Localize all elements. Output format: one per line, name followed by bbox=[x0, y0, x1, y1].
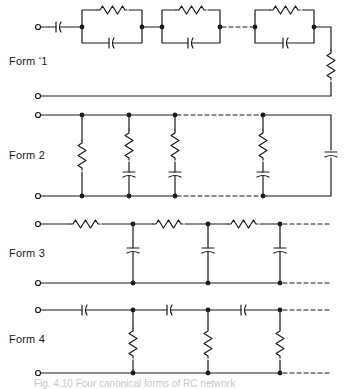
circuit-diagram bbox=[0, 0, 345, 389]
resistor-icon bbox=[129, 328, 137, 358]
resistor-icon bbox=[228, 220, 258, 228]
form-3-label: Form 3 bbox=[9, 247, 45, 259]
figure-caption: Fig. 4.10 Four canonical forms of RC net… bbox=[34, 378, 235, 389]
series-rc-branch-2 bbox=[169, 113, 181, 198]
form-2-label: Form 2 bbox=[9, 149, 45, 161]
input-terminal-top bbox=[36, 25, 41, 30]
form-2-network bbox=[36, 113, 338, 199]
form-1-network bbox=[36, 6, 336, 99]
form-1-label: Form ʻ1 bbox=[9, 55, 48, 67]
resistor-icon bbox=[259, 130, 267, 160]
resistor-icon bbox=[270, 6, 300, 14]
resistor-icon bbox=[125, 130, 133, 160]
parallel-rc-section-2 bbox=[162, 6, 220, 48]
form-4-network bbox=[36, 305, 331, 376]
form-3-network bbox=[36, 220, 331, 286]
series-rc-branch-n bbox=[257, 113, 269, 198]
resistor-icon bbox=[171, 130, 179, 160]
shunt-capacitors bbox=[127, 224, 286, 283]
shunt-resistors bbox=[129, 310, 284, 373]
parallel-rc-section-n bbox=[255, 6, 314, 48]
resistor-icon bbox=[276, 328, 284, 358]
parallel-rc-section-1 bbox=[82, 6, 142, 48]
resistor-icon bbox=[176, 6, 206, 14]
resistor-icon bbox=[153, 220, 183, 228]
form-4-label: Form 4 bbox=[9, 333, 45, 345]
resistor-icon bbox=[70, 220, 100, 228]
resistor-icon bbox=[327, 50, 335, 80]
input-terminal-bottom bbox=[36, 94, 41, 99]
resistor-icon bbox=[78, 140, 86, 170]
resistor-icon bbox=[97, 6, 127, 14]
resistor-icon bbox=[204, 328, 212, 358]
series-rc-branch-1 bbox=[123, 113, 135, 198]
